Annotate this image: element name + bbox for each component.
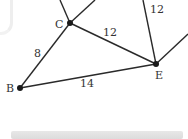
- node-c-label: C: [55, 18, 63, 31]
- edge-e-top-weight: 12: [150, 3, 164, 16]
- bottom-bar: [11, 131, 183, 139]
- edge-be-weight: 14: [80, 77, 94, 90]
- edge-bc-weight: 8: [34, 47, 41, 60]
- edge-ce-weight: 12: [103, 26, 117, 39]
- node-e-label: E: [155, 69, 163, 82]
- edge-b-c: [20, 23, 70, 88]
- edge-e-offscreen-right: [156, 34, 188, 64]
- node-b-label: B: [6, 82, 14, 95]
- graph-diagram: C E B 8 12 14 12: [0, 0, 188, 139]
- node-e: [153, 61, 159, 67]
- node-c: [67, 20, 73, 26]
- edge-c-offscreen-top-right: [70, 0, 95, 23]
- node-b: [17, 85, 23, 91]
